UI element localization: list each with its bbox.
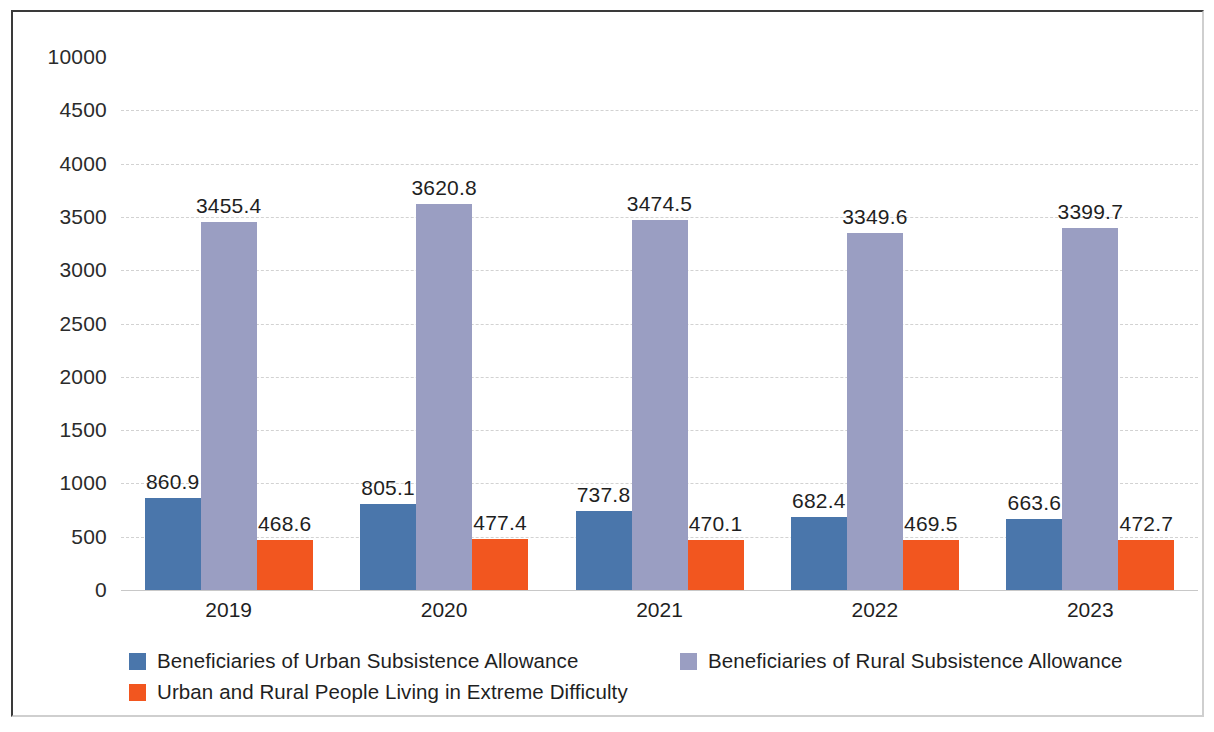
bar-group: 737.83474.5470.1 [576, 57, 744, 590]
x-axis-tick-label: 2019 [121, 598, 336, 622]
x-axis-tick-label: 2021 [552, 598, 767, 622]
y-axis-tick-label: 0 [17, 578, 107, 602]
bar[interactable]: 860.9 [145, 498, 201, 590]
plot-area: 1000045004000350030002500200015001000500… [121, 57, 1198, 590]
bar-value-label: 3474.5 [627, 192, 692, 216]
legend-item-rural-subsistence[interactable]: Beneficiaries of Rural Subsistence Allow… [680, 649, 1123, 673]
bar[interactable]: 3455.4 [201, 222, 257, 590]
bar-group: 682.43349.6469.5 [791, 57, 959, 590]
bar[interactable]: 3349.6 [847, 233, 903, 590]
y-axis-tick-label: 1000 [17, 471, 107, 495]
bar-value-label: 472.7 [1120, 512, 1174, 536]
bar[interactable]: 470.1 [688, 540, 744, 590]
bar[interactable]: 663.6 [1006, 519, 1062, 590]
bar-value-label: 805.1 [361, 476, 415, 500]
bar[interactable]: 468.6 [257, 540, 313, 590]
bar[interactable]: 682.4 [791, 517, 847, 590]
legend-item-urban-subsistence[interactable]: Beneficiaries of Urban Subsistence Allow… [129, 649, 578, 673]
bar-value-label: 682.4 [792, 489, 846, 513]
y-axis-tick-label: 500 [17, 525, 107, 549]
legend-item-extreme-difficulty[interactable]: Urban and Rural People Living in Extreme… [129, 680, 628, 704]
bar-value-label: 477.4 [473, 511, 527, 535]
bar[interactable]: 3620.8 [416, 204, 472, 590]
bar-value-label: 663.6 [1008, 491, 1062, 515]
y-axis-tick-label: 4000 [17, 152, 107, 176]
y-axis-tick-label: 3000 [17, 258, 107, 282]
bar[interactable]: 3474.5 [632, 220, 688, 590]
bar[interactable]: 3399.7 [1062, 228, 1118, 590]
bar[interactable]: 472.7 [1118, 540, 1174, 590]
legend-swatch-icon [129, 653, 146, 670]
bar-group: 860.93455.4468.6 [145, 57, 313, 590]
bar[interactable]: 477.4 [472, 539, 528, 590]
x-axis-tick-label: 2020 [336, 598, 551, 622]
bar-value-label: 469.5 [904, 512, 958, 536]
y-axis-tick-label: 2000 [17, 365, 107, 389]
legend-swatch-icon [680, 653, 697, 670]
bar-value-label: 3455.4 [196, 194, 261, 218]
x-axis-tick-label: 2022 [767, 598, 982, 622]
bar-group: 805.13620.8477.4 [360, 57, 528, 590]
y-axis-tick-label: 1500 [17, 418, 107, 442]
bar-group: 663.63399.7472.7 [1006, 57, 1174, 590]
y-axis-tick-label: 4500 [17, 98, 107, 122]
bar-value-label: 3399.7 [1058, 200, 1123, 224]
bar-chart: 1000045004000350030002500200015001000500… [0, 0, 1214, 732]
bar-value-label: 3620.8 [411, 176, 476, 200]
legend-swatch-icon [129, 684, 146, 701]
bar-value-label: 3349.6 [842, 205, 907, 229]
bar[interactable]: 737.8 [576, 511, 632, 590]
bar-value-label: 468.6 [258, 512, 312, 536]
legend-item-label: Beneficiaries of Urban Subsistence Allow… [157, 649, 578, 673]
legend-item-label: Beneficiaries of Rural Subsistence Allow… [708, 649, 1123, 673]
x-axis-tick-label: 2023 [983, 598, 1198, 622]
y-axis-tick-label: 10000 [17, 45, 107, 69]
bar[interactable]: 469.5 [903, 540, 959, 590]
bar-value-label: 470.1 [689, 512, 743, 536]
bar-value-label: 860.9 [146, 470, 200, 494]
y-axis-tick-label: 3500 [17, 205, 107, 229]
bar[interactable]: 805.1 [360, 504, 416, 590]
y-axis-tick-label: 2500 [17, 312, 107, 336]
chart-frame: 1000045004000350030002500200015001000500… [11, 10, 1204, 717]
gridline [121, 590, 1198, 591]
bar-value-label: 737.8 [577, 483, 631, 507]
chart-legend: Beneficiaries of Urban Subsistence Allow… [121, 649, 1201, 713]
legend-item-label: Urban and Rural People Living in Extreme… [157, 680, 628, 704]
